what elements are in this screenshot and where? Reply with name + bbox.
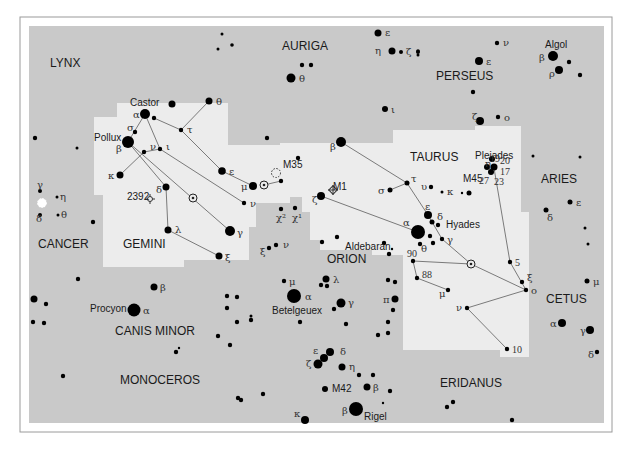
star xyxy=(467,191,472,196)
star xyxy=(387,252,391,256)
pleiades-designation: 20 xyxy=(500,155,510,166)
star xyxy=(128,304,141,317)
star-designation: ι xyxy=(391,104,395,115)
star xyxy=(386,320,390,324)
star xyxy=(216,253,223,260)
star xyxy=(165,227,172,234)
star xyxy=(142,150,146,154)
star xyxy=(388,188,393,193)
star-designation: 90 xyxy=(407,248,417,259)
object-name-label: Hyades xyxy=(446,219,480,230)
star-designation: μ xyxy=(439,288,446,299)
star xyxy=(242,201,246,205)
star xyxy=(151,284,158,291)
star xyxy=(320,354,328,362)
star xyxy=(441,191,444,194)
star-designation: γ xyxy=(237,227,243,238)
star xyxy=(558,319,566,327)
constellation-label-canis-minor: CANIS MINOR xyxy=(115,324,195,338)
star xyxy=(249,182,257,190)
star-designation: γ xyxy=(447,234,453,245)
star-designation: ε xyxy=(576,197,581,208)
star xyxy=(158,147,162,151)
star xyxy=(451,400,455,404)
star xyxy=(221,33,224,36)
star xyxy=(56,196,59,199)
star-designation: δ xyxy=(547,212,553,223)
constellation-label-cancer: CANCER xyxy=(38,237,89,251)
star xyxy=(548,51,558,61)
star xyxy=(225,306,229,310)
object-name-label: M1 xyxy=(333,181,347,192)
star xyxy=(235,295,239,299)
star xyxy=(424,211,432,219)
star xyxy=(265,136,269,140)
star xyxy=(475,57,483,65)
star xyxy=(389,48,396,55)
star xyxy=(382,402,384,404)
star xyxy=(235,320,239,324)
star xyxy=(392,296,399,303)
star xyxy=(405,181,410,186)
star xyxy=(267,246,271,250)
star xyxy=(495,41,499,45)
star xyxy=(174,350,178,354)
star xyxy=(122,136,134,148)
star-designation: θ xyxy=(421,243,427,254)
star-designation: χ² xyxy=(276,212,286,223)
star-designation: ε xyxy=(229,166,234,177)
star xyxy=(386,331,390,335)
star xyxy=(391,308,395,312)
object-name-label: M42 xyxy=(332,383,352,394)
star xyxy=(300,63,304,67)
star xyxy=(524,288,528,292)
star xyxy=(586,326,594,334)
star xyxy=(532,155,535,158)
star-designation: α xyxy=(305,291,312,302)
constellation-label-taurus: TAURUS xyxy=(410,150,458,164)
star-designation: η xyxy=(349,361,355,372)
star xyxy=(33,136,37,140)
star-designation: ζ xyxy=(306,358,312,369)
star-designation: ε xyxy=(313,345,318,356)
star-designation: σ xyxy=(378,185,385,196)
star xyxy=(411,225,425,239)
constellation-label-perseus: PERSEUS xyxy=(436,69,493,83)
object-name-label: Rigel xyxy=(364,411,387,422)
star xyxy=(344,322,348,326)
star xyxy=(335,235,339,239)
object-name-label: M35 xyxy=(283,159,303,170)
star-designation: ξ xyxy=(527,272,533,283)
star xyxy=(349,402,363,416)
star xyxy=(445,405,449,409)
star xyxy=(57,214,60,217)
star-designation: μ xyxy=(593,276,600,287)
star xyxy=(436,223,440,227)
star-designation: ι xyxy=(166,141,170,152)
star-designation: β xyxy=(330,141,336,152)
star-designation: α xyxy=(143,305,150,316)
star-designation: 5 xyxy=(515,257,520,268)
star xyxy=(61,374,65,378)
star-designation: δ xyxy=(588,349,594,360)
star-designation: ζ xyxy=(472,111,478,122)
zeta-gem-target-icon xyxy=(189,194,197,202)
star-designation: γ xyxy=(580,325,586,336)
star xyxy=(314,360,323,369)
star xyxy=(42,321,46,325)
object-name-label: Pollux xyxy=(94,132,121,143)
star-designation: κ xyxy=(108,170,115,181)
star xyxy=(274,243,278,247)
constellation-label-orion: ORION xyxy=(327,252,366,266)
star xyxy=(91,220,95,224)
star-designation: α xyxy=(550,318,557,329)
star xyxy=(140,109,150,119)
star xyxy=(399,50,403,54)
star xyxy=(465,306,469,310)
star xyxy=(357,373,361,377)
star-designation: ζ xyxy=(406,46,412,57)
star-designation: ν xyxy=(150,141,156,152)
object-name-label: Procyon xyxy=(90,303,127,314)
star xyxy=(249,318,253,322)
star-designation: ε xyxy=(385,27,390,38)
